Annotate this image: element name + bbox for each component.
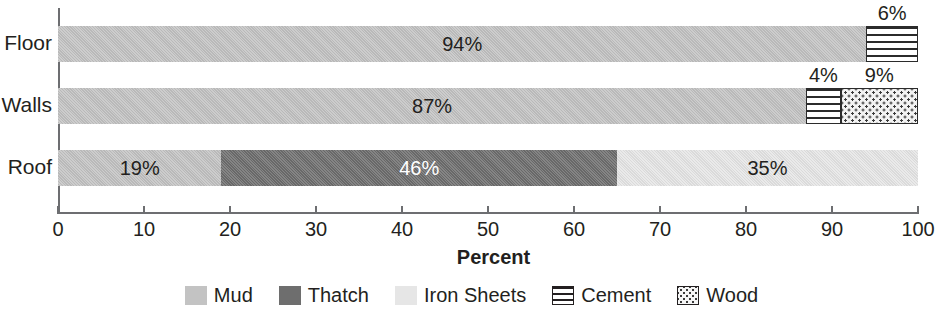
legend-label: Iron Sheets — [424, 284, 526, 307]
legend-label: Wood — [706, 284, 758, 307]
cement-swatch — [552, 286, 574, 305]
x-tick — [745, 206, 747, 214]
wood-swatch — [677, 286, 699, 305]
iron-sheets-swatch — [395, 286, 417, 305]
bar-segment-floor-mud: 94% — [58, 26, 866, 62]
legend-item-mud: Mud — [185, 284, 253, 307]
x-tick-label: 50 — [477, 218, 499, 241]
bar-segment-roof-iron-sheets: 35% — [617, 150, 918, 186]
x-tick-label: 10 — [133, 218, 155, 241]
x-axis-title-text: Percent — [457, 246, 530, 268]
x-tick-label: 40 — [391, 218, 413, 241]
x-tick-label: 30 — [305, 218, 327, 241]
x-tick-label: 80 — [735, 218, 757, 241]
category-label-roof: Roof — [8, 155, 52, 179]
x-tick-label: 60 — [563, 218, 585, 241]
legend-item-wood: Wood — [677, 284, 758, 307]
x-tick — [659, 206, 661, 214]
x-tick-label: 90 — [821, 218, 843, 241]
bar-row-walls: 87%4%9% — [58, 88, 918, 124]
x-tick — [401, 206, 403, 214]
x-tick — [143, 206, 145, 214]
segment-value-label: 4% — [809, 64, 838, 87]
segment-value-label: 6% — [878, 2, 907, 25]
x-tick-label: 70 — [649, 218, 671, 241]
x-tick — [315, 206, 317, 214]
category-label-walls: Walls — [1, 93, 52, 117]
legend-label: Cement — [581, 284, 651, 307]
segment-value-label: 94% — [442, 33, 482, 56]
x-tick — [57, 206, 59, 214]
stacked-bar-chart: 0102030405060708090100 FloorWallsRoof 94… — [0, 0, 943, 317]
segment-value-label: 35% — [747, 157, 787, 180]
bar-segment-roof-thatch: 46% — [221, 150, 617, 186]
bar-segment-walls-wood: 9% — [841, 88, 918, 124]
x-tick — [917, 206, 919, 214]
x-axis-title: Percent — [0, 246, 943, 269]
mud-swatch — [185, 286, 207, 305]
legend-label: Thatch — [308, 284, 369, 307]
category-label-floor: Floor — [4, 31, 52, 55]
x-tick-label: 0 — [53, 218, 64, 241]
legend-item-iron-sheets: Iron Sheets — [395, 284, 526, 307]
legend-item-thatch: Thatch — [279, 284, 369, 307]
x-tick — [573, 206, 575, 214]
legend-item-cement: Cement — [552, 284, 651, 307]
segment-value-label: 9% — [865, 64, 894, 87]
segment-value-label: 87% — [412, 95, 452, 118]
x-tick-label: 20 — [219, 218, 241, 241]
thatch-swatch — [279, 286, 301, 305]
bar-segment-roof-mud: 19% — [58, 150, 221, 186]
bar-row-floor: 94%6% — [58, 26, 918, 62]
x-tick-label: 100 — [902, 218, 935, 241]
chart-legend: MudThatchIron SheetsCementWood — [0, 284, 943, 307]
segment-value-label: 19% — [120, 157, 160, 180]
bar-segment-floor-cement: 6% — [866, 26, 918, 62]
x-tick — [487, 206, 489, 214]
x-tick — [831, 206, 833, 214]
segment-value-label: 46% — [399, 157, 439, 180]
bar-segment-walls-cement: 4% — [806, 88, 840, 124]
bar-row-roof: 19%46%35% — [58, 150, 918, 186]
legend-label: Mud — [214, 284, 253, 307]
bar-segment-walls-mud: 87% — [58, 88, 806, 124]
x-tick — [229, 206, 231, 214]
